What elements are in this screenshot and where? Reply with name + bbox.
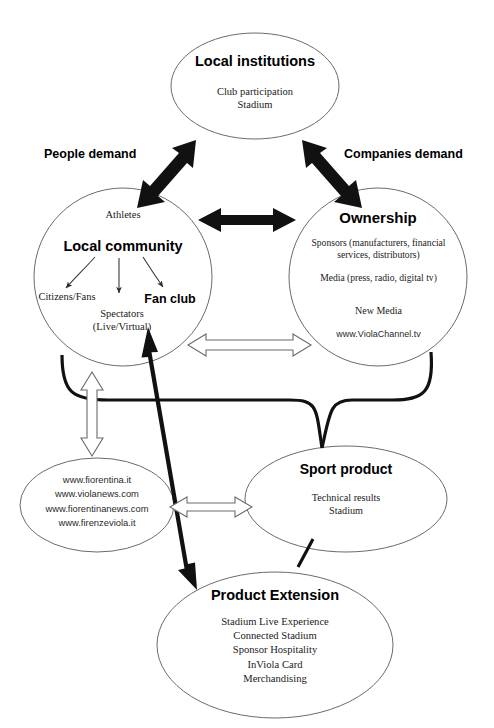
ownership-heading: Ownership — [318, 208, 438, 227]
sport-product-body: Technical results Stadium — [276, 491, 416, 517]
product-extension-body: Stadium Live Experience Connected Stadiu… — [175, 615, 375, 686]
arrow-hollow-community-websites — [81, 372, 103, 456]
local-community-spectators: Spectators (Live/Virtual) — [72, 307, 172, 334]
arrow-fanclub-product-extension — [142, 327, 198, 590]
local-community-fan-club: Fan club — [128, 291, 212, 307]
local-community-athletes: Athletes — [63, 208, 183, 221]
sport-product-heading: Sport product — [276, 461, 416, 479]
local-community-heading: Local community — [38, 237, 208, 256]
local-institutions-heading: Local institutions — [155, 52, 355, 71]
local-institutions-body: Club participation Stadium — [155, 85, 355, 112]
label-companies-demand: Companies demand — [344, 146, 494, 162]
ownership-viola-channel: www.ViolaChannel.tv — [306, 329, 451, 341]
diagram-canvas: Local institutions Club participation St… — [0, 0, 494, 728]
websites-list: www.fiorentina.it www.violanews.com www.… — [22, 473, 172, 530]
ownership-media: Media (press, radio, digital tv) — [296, 272, 461, 284]
local-community-citizens-fans: Citizens/Fans — [17, 290, 117, 303]
connector-community-to-sport-product — [62, 355, 322, 448]
arrow-hollow-community-ownership — [188, 334, 311, 356]
label-people-demand: People demand — [44, 146, 174, 162]
product-extension-heading: Product Extension — [175, 586, 375, 605]
arrow-community-ownership — [198, 208, 296, 232]
arrow-hollow-websites-sport-product — [170, 497, 252, 517]
ownership-new-media: New Media — [306, 305, 451, 318]
ownership-sponsors: Sponsors (manufacturers, financial servi… — [296, 237, 461, 262]
